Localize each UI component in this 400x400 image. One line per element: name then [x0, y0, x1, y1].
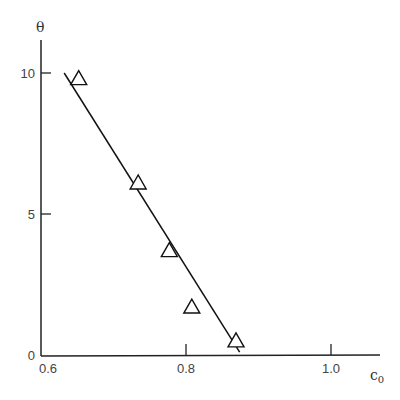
y-ticks: 0510: [21, 66, 51, 363]
triangle-marker: [184, 299, 200, 313]
x-tick-label: 0.6: [39, 361, 57, 376]
fit-line: [64, 73, 239, 352]
x-tick-label: 1.0: [322, 361, 340, 376]
y-tick-label: 5: [28, 207, 35, 222]
x-tick-label: 0.8: [177, 361, 195, 376]
triangle-marker: [71, 71, 87, 85]
triangle-marker: [228, 333, 244, 347]
x-axis-label-sub: 0: [378, 374, 384, 385]
x-axis-label-main: c: [370, 367, 378, 383]
x-axis-label: c0: [370, 367, 384, 385]
y-tick-label: 10: [21, 66, 35, 81]
chart: 0510 0.60.81.0 θ c0: [0, 0, 400, 400]
y-tick-label: 0: [28, 348, 35, 363]
x-axis: [41, 355, 380, 356]
x-ticks: 0.60.81.0: [39, 344, 340, 376]
y-axis-label: θ: [36, 19, 44, 35]
data-markers: [71, 71, 244, 347]
